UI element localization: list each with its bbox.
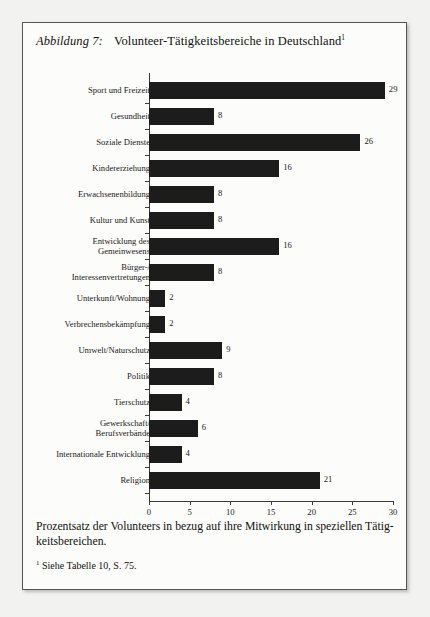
y-axis-tick: [145, 493, 149, 494]
category-label: Umwelt/Naturschutz: [22, 346, 150, 356]
bar: [149, 472, 320, 489]
x-axis-tick-label: 30: [381, 507, 405, 517]
x-axis-tick: [312, 501, 313, 505]
category-label: Gewerkschaft/ Berufsverbände: [22, 419, 150, 438]
category-label: Religion: [22, 476, 150, 486]
chart-bar-row: Sport und Freizeit29: [23, 78, 407, 104]
bar: [149, 316, 165, 333]
category-label: Kindererziehung: [22, 164, 150, 174]
category-label: Bürger-/ Interessenvertretungen: [22, 263, 150, 282]
bar-value-label: 2: [169, 318, 173, 328]
bar: [149, 186, 214, 203]
x-axis-tick: [271, 501, 272, 505]
chart-bar-row: Politik8: [23, 364, 407, 390]
bar-value-label: 16: [283, 162, 292, 172]
bar: [149, 160, 279, 177]
bar-value-label: 8: [218, 266, 222, 276]
x-axis-tick: [393, 501, 394, 505]
bar: [149, 342, 222, 359]
chart-bar-row: Umwelt/Naturschutz9: [23, 338, 407, 364]
bar: [149, 238, 279, 255]
category-label: Verbrechensbekämpfung: [22, 320, 150, 330]
category-label: Erwachsenenbildung: [22, 190, 150, 200]
bar-value-label: 2: [169, 292, 173, 302]
chart-bar-row: Bürger-/ Interessenvertretungen8: [23, 260, 407, 286]
bar: [149, 368, 214, 385]
chart-bar-row: Internationale Entwicklung4: [23, 442, 407, 468]
category-label: Gesundheit: [22, 112, 150, 122]
category-label: Kultur und Kunst: [22, 216, 150, 226]
figure-title: Abbildung 7:Volunteer-Tätigkeitsbereiche…: [36, 33, 345, 49]
chart-bar-row: Entwicklung des Gemeinwesens16: [23, 234, 407, 260]
x-axis-tick-label: 25: [340, 507, 364, 517]
figure-container: Abbildung 7:Volunteer-Tätigkeitsbereiche…: [22, 22, 407, 590]
chart-bar-row: Kindererziehung16: [23, 156, 407, 182]
bar: [149, 394, 182, 411]
chart-bar-row: Tierschutz4: [23, 390, 407, 416]
figure-description: Prozentsatz der Volunteers in bezug auf …: [36, 520, 394, 549]
bar-value-label: 16: [283, 240, 292, 250]
bar: [149, 134, 360, 151]
chart-bar-row: Unterkunft/Wohnung2: [23, 286, 407, 312]
category-label: Soziale Dienste: [22, 138, 150, 148]
x-axis-tick-label: 0: [137, 507, 161, 517]
category-label: Politik: [22, 372, 150, 382]
chart-bar-row: Gesundheit8: [23, 104, 407, 130]
chart-bar-row: Gewerkschaft/ Berufsverbände6: [23, 416, 407, 442]
footnote-marker: 1: [36, 559, 40, 567]
bar-value-label: 4: [186, 396, 190, 406]
chart-bar-row: Soziale Dienste26: [23, 130, 407, 156]
bar-value-label: 8: [218, 214, 222, 224]
footnote-text: Siehe Tabelle 10, S. 75.: [42, 560, 136, 571]
x-axis-tick: [190, 501, 191, 505]
bar-value-label: 26: [364, 136, 373, 146]
bar: [149, 82, 385, 99]
x-axis-tick: [352, 501, 353, 505]
bar: [149, 212, 214, 229]
bar-value-label: 9: [226, 344, 230, 354]
figure-number-label: Abbildung 7:: [36, 34, 114, 49]
bar: [149, 420, 198, 437]
chart-bar-row: Erwachsenenbildung8: [23, 182, 407, 208]
figure-title-text: Volunteer-Tätigkeitsbereiche in Deutschl…: [114, 34, 341, 48]
figure-footnote: 1 Siehe Tabelle 10, S. 75.: [36, 557, 394, 572]
bar: [149, 290, 165, 307]
chart-bar-row: Kultur und Kunst8: [23, 208, 407, 234]
category-label: Unterkunft/Wohnung: [22, 294, 150, 304]
x-axis-tick-label: 5: [178, 507, 202, 517]
category-label: Tierschutz: [22, 398, 150, 408]
bar-value-label: 8: [218, 370, 222, 380]
x-axis-tick-label: 10: [218, 507, 242, 517]
bar-value-label: 21: [324, 474, 333, 484]
bar: [149, 446, 182, 463]
category-label: Internationale Entwicklung: [22, 450, 150, 460]
x-axis-tick-label: 20: [300, 507, 324, 517]
chart-bar-row: Religion21: [23, 468, 407, 494]
bar: [149, 264, 214, 281]
x-axis-tick: [230, 501, 231, 505]
bar-value-label: 8: [218, 188, 222, 198]
bar-chart: Sport und Freizeit29Gesundheit8Soziale D…: [23, 73, 407, 513]
bar-value-label: 29: [389, 84, 398, 94]
x-axis-tick: [149, 501, 150, 505]
category-label: Sport und Freizeit: [22, 86, 150, 96]
bar: [149, 108, 214, 125]
bar-value-label: 8: [218, 110, 222, 120]
bar-value-label: 6: [202, 422, 206, 432]
chart-bar-row: Verbrechensbekämpfung2: [23, 312, 407, 338]
figure-title-footnote-marker: 1: [341, 33, 345, 42]
category-label: Entwicklung des Gemeinwesens: [22, 237, 150, 256]
x-axis-tick-label: 15: [259, 507, 283, 517]
bar-value-label: 4: [186, 448, 190, 458]
